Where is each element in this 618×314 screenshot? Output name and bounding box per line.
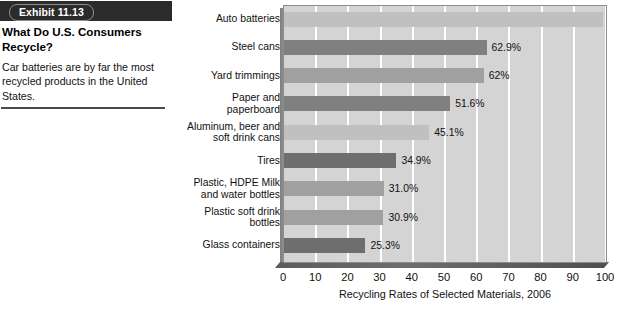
x-tick-label: 30 (373, 270, 385, 284)
category-label: Plastic soft drink bottles (178, 206, 280, 229)
bar-value-label: 31.0% (389, 181, 418, 196)
x-tick-label: 40 (406, 270, 418, 284)
bar (284, 12, 603, 27)
x-axis-tick-labels: 0102030405060708090100 (283, 270, 607, 286)
bar (284, 153, 396, 168)
gridline (605, 6, 607, 262)
x-tick-label: 90 (567, 270, 579, 284)
category-label: Auto batteries (178, 13, 280, 25)
bar (284, 96, 450, 111)
bar-value-label: 62.9% (492, 40, 521, 55)
bar-value-label: 51.6% (455, 96, 484, 111)
category-label: Aluminum, beer and soft drink cans (178, 121, 280, 144)
bar (284, 40, 487, 55)
bar (284, 68, 484, 83)
x-tick-label: 20 (341, 270, 353, 284)
bar-value-label: 25.3% (370, 238, 399, 253)
x-tick-label: 60 (470, 270, 482, 284)
category-label: Glass containers (178, 239, 280, 251)
x-tick-label: 80 (534, 270, 546, 284)
bar (284, 210, 383, 225)
exhibit-banner: Exhibit 11.13 (0, 1, 172, 21)
recycling-rates-bar-chart: Auto batteriesSteel cansYard trimmingsPa… (178, 0, 618, 314)
category-label: Tires (178, 155, 280, 167)
bar (284, 125, 429, 140)
category-label: Steel cans (178, 41, 280, 53)
plot-area: 99%62.9%62%51.6%45.1%34.9%31.0%30.9%25.3… (283, 5, 607, 263)
x-tick-label: 100 (596, 270, 615, 284)
exhibit-caption-panel: Exhibit 11.13 What Do U.S. Consumers Rec… (0, 0, 178, 314)
bar-value-label: 62% (489, 68, 510, 83)
category-label: Paper and paperboard (178, 92, 280, 115)
x-tick-label: 10 (309, 270, 321, 284)
caption-divider (1, 107, 165, 109)
page-title: What Do U.S. Consumers Recycle? (2, 25, 174, 54)
category-label: Plastic, HDPE Milk and water bottles (178, 177, 280, 200)
bar-value-label: 30.9% (388, 210, 417, 225)
category-label: Yard trimmings (178, 70, 280, 82)
bar (284, 181, 384, 196)
category-axis-labels: Auto batteriesSteel cansYard trimmingsPa… (178, 8, 280, 268)
gridline (541, 6, 543, 262)
x-tick-label: 70 (502, 270, 514, 284)
gridline (573, 6, 575, 262)
x-tick-label: 0 (280, 270, 286, 284)
caption-description: Car batteries are by far the most recycl… (2, 60, 170, 103)
bar-value-label: 45.1% (434, 125, 463, 140)
bar (284, 238, 365, 253)
x-axis-title: Recycling Rates of Selected Materials, 2… (283, 288, 607, 300)
exhibit-number-label: Exhibit 11.13 (9, 4, 94, 21)
x-tick-label: 50 (438, 270, 450, 284)
bar-value-label: 34.9% (401, 153, 430, 168)
